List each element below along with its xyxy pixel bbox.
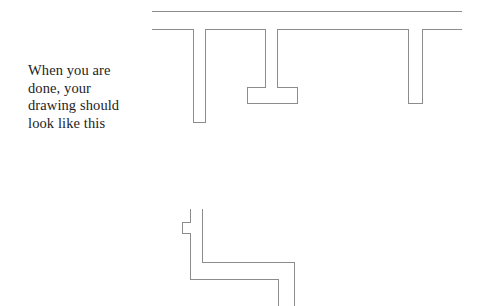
page-canvas: When you are done, your drawing should l… [0, 0, 484, 306]
lower-corner-wall-outline [182, 209, 294, 306]
upper-figure-group [152, 11, 462, 122]
technical-drawing [0, 0, 484, 306]
lower-figure-group [182, 209, 294, 306]
upper-wall-outline [152, 29, 462, 122]
